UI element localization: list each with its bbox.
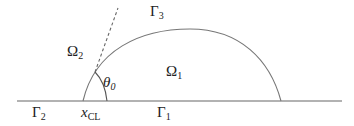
label-gamma1: Γ1: [157, 105, 171, 122]
label-gamma2: Γ2: [32, 105, 46, 122]
label-theta0: θ0: [103, 75, 115, 92]
label-xcl: xCL: [81, 105, 100, 122]
label-omega1: Ω1: [166, 64, 182, 81]
diagram-canvas: Γ3 Ω2 Ω1 θ0 Γ2 xCL Γ1: [0, 0, 354, 126]
tangent-dashed-line: [95, 8, 118, 72]
label-omega2: Ω2: [67, 44, 83, 61]
label-gamma3: Γ3: [150, 4, 164, 21]
